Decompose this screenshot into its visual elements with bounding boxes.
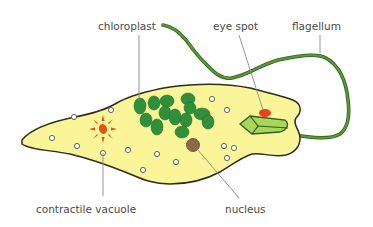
label-nucleus: nucleus <box>225 203 266 215</box>
euglena-diagram: chloroplast eye spot flagellum contracti… <box>0 0 373 227</box>
label-contractile-vacuole: contractile vacuole <box>36 203 136 215</box>
label-eye-spot: eye spot <box>213 20 258 32</box>
label-flagellum: flagellum <box>292 20 341 32</box>
contractile-vacuole <box>89 115 117 143</box>
eye-spot <box>259 109 271 117</box>
label-chloroplast: chloroplast <box>98 20 156 32</box>
